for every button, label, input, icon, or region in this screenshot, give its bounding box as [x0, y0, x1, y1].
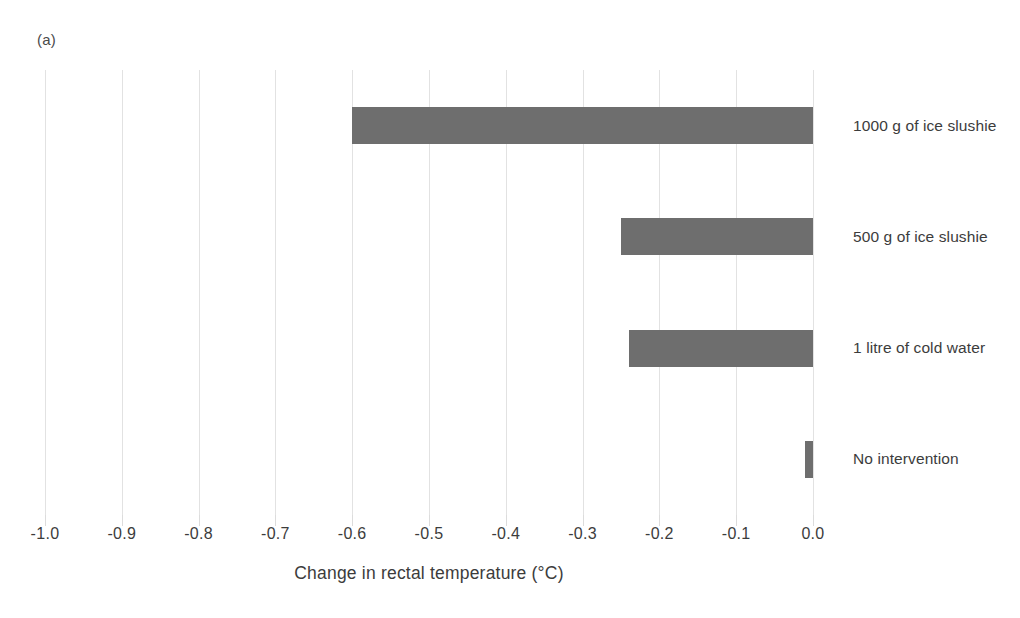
bar-row	[45, 70, 813, 181]
bar[interactable]	[352, 107, 813, 144]
category-label: 1 litre of cold water	[853, 339, 985, 357]
x-tick-label: -1.0	[31, 525, 60, 543]
x-tick-label: -0.4	[491, 525, 520, 543]
x-tick-label: -0.6	[338, 525, 367, 543]
x-tick-label: -0.5	[415, 525, 444, 543]
panel-label: (a)	[37, 31, 56, 48]
category-label: No intervention	[853, 450, 959, 468]
bar[interactable]	[629, 330, 813, 367]
x-tick-label: -0.8	[184, 525, 213, 543]
x-tick-label: -0.7	[261, 525, 290, 543]
bar-row	[45, 181, 813, 292]
bar-row	[45, 293, 813, 404]
category-label: 500 g of ice slushie	[853, 228, 988, 246]
bar[interactable]	[805, 441, 813, 478]
x-tick-label: -0.3	[568, 525, 597, 543]
gridline	[813, 70, 814, 515]
x-tick-label: -0.1	[722, 525, 751, 543]
figure-panel-a: (a) Change in rectal temperature (°C) -1…	[0, 0, 1020, 618]
bar-row	[45, 404, 813, 515]
x-tick-label: 0.0	[801, 525, 824, 543]
x-tick-label: -0.9	[107, 525, 136, 543]
x-tick-label: -0.2	[645, 525, 674, 543]
category-label: 1000 g of ice slushie	[853, 117, 996, 135]
x-axis-title: Change in rectal temperature (°C)	[0, 563, 858, 584]
bar[interactable]	[621, 218, 813, 255]
